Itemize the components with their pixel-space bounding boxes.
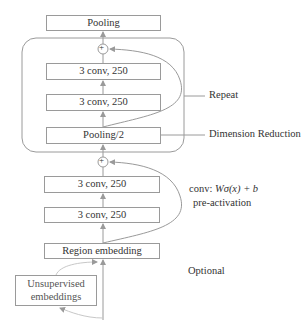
pooling-half-node: Pooling/2	[46, 127, 161, 144]
add-symbol-middle: +	[99, 155, 104, 165]
pooling-node: Pooling	[46, 15, 161, 31]
unsupervised-embeddings-line2: embeddings	[31, 291, 82, 303]
conv-repeat-node-1: 3 conv, 250	[46, 63, 161, 80]
optional-annotation: Optional	[188, 265, 225, 276]
conv-formula-prefix: conv:	[189, 183, 215, 194]
unsupervised-embeddings-line1: Unsupervised	[27, 278, 85, 290]
conv-formula: Wσ(x) + b	[215, 183, 258, 194]
conv-base-node-2: 3 conv, 250	[44, 207, 160, 223]
region-embedding-node: Region embedding	[44, 243, 160, 259]
conv-base-node-1: 3 conv, 250	[44, 176, 160, 193]
dimension-reduction-annotation: Dimension Reduction	[209, 128, 301, 139]
add-symbol-top: +	[99, 42, 104, 52]
unsupervised-embeddings-node: Unsupervised embeddings	[15, 275, 97, 306]
pre-activation-annotation: pre-activation	[193, 197, 251, 208]
conv-formula-annotation: conv: Wσ(x) + b	[189, 183, 258, 194]
repeat-annotation: Repeat	[209, 89, 238, 100]
conv-repeat-node-2: 3 conv, 250	[46, 94, 161, 111]
